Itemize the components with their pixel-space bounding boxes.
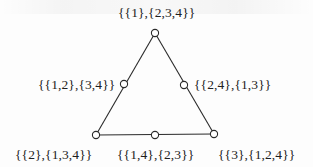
node-bottom-left-circle-icon <box>92 131 99 138</box>
node-label-bottom-right: {{3},{1,2,4}} <box>218 148 295 162</box>
node-label-bottom-left: {{2},{1,3,4}} <box>15 148 92 162</box>
node-bottom-right-circle-icon <box>210 130 217 137</box>
node-right-mid-circle-icon <box>180 81 187 88</box>
node-label-left-mid: {{1,2},{3,4}} <box>38 78 115 92</box>
node-label-bottom-mid: {{1,4},{2,3}} <box>117 148 194 162</box>
node-label-right-mid: {{2,4},{1,3}} <box>194 78 271 92</box>
node-top-circle-icon <box>151 29 158 36</box>
node-left-mid-circle-icon <box>120 80 127 87</box>
node-bottom-mid-circle-icon <box>151 131 158 138</box>
node-label-top: {{1},{2,3,4}} <box>118 6 195 20</box>
diagram-canvas: {{1},{2,3,4}} {{1,2},{3,4}} {{2,4},{1,3}… <box>0 0 313 167</box>
